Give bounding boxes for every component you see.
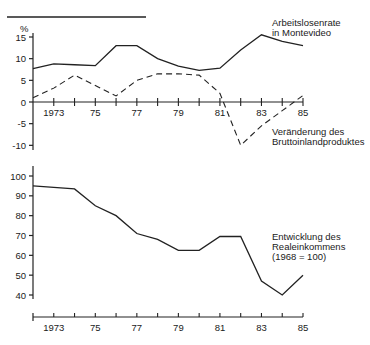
x-tick-label: 81: [215, 322, 226, 333]
y-tick-label: 90: [15, 190, 26, 201]
y-tick-label: 5: [21, 75, 26, 86]
x-tick-label: 77: [132, 107, 143, 118]
y-tick-label: 60: [15, 250, 26, 261]
real-income-line: [33, 186, 303, 295]
gdp-label-2: Bruttoinlandproduktes: [272, 136, 365, 147]
bottom-chart: 100908070605040 1973757779818385 Entwick…: [10, 166, 346, 333]
top-chart: % 151050-5-10 1973757779818385 Arbeitslo…: [12, 17, 364, 151]
y-tick-label: 50: [15, 270, 26, 281]
y-tick-label: 0: [21, 97, 26, 108]
top-x-ticks: 1973757779818385: [43, 98, 308, 118]
x-tick-label: 85: [298, 107, 309, 118]
x-tick-label: 1973: [43, 107, 64, 118]
unemployment-label-2: in Montevideo: [272, 27, 331, 38]
bottom-y-ticks: 100908070605040: [10, 171, 33, 301]
unemployment-line: [33, 35, 303, 71]
y-tick-label: -10: [12, 140, 26, 151]
x-tick-label: 85: [298, 322, 309, 333]
x-tick-label: 83: [256, 322, 267, 333]
x-tick-label: 83: [256, 107, 267, 118]
x-tick-label: 77: [132, 322, 143, 333]
y-tick-label: 15: [15, 32, 26, 43]
x-tick-label: 79: [173, 322, 184, 333]
y-tick-label: 10: [15, 53, 26, 64]
y-tick-label: -5: [18, 118, 26, 129]
y-tick-label: 40: [15, 290, 26, 301]
income-label-3: (1968 = 100): [272, 251, 326, 262]
y-tick-label: 80: [15, 210, 26, 221]
x-tick-label: 75: [90, 322, 101, 333]
x-tick-label: 81: [215, 107, 226, 118]
top-y-ticks: 151050-5-10: [12, 32, 33, 151]
x-tick-label: 75: [90, 107, 101, 118]
x-tick-label: 79: [173, 107, 184, 118]
y-tick-label: 100: [10, 171, 26, 182]
y-tick-label: 70: [15, 230, 26, 241]
chart-canvas: % 151050-5-10 1973757779818385 Arbeitslo…: [0, 0, 370, 345]
x-tick-label: 1973: [43, 322, 64, 333]
bottom-x-ticks: 1973757779818385: [43, 313, 308, 333]
